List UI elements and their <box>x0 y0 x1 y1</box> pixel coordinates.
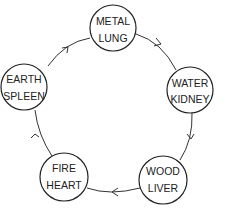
edge-metal-to-water <box>136 34 176 70</box>
node-label-element: WATER <box>172 77 209 89</box>
arrow-head-icon <box>154 38 161 46</box>
node-fire-heart: FIRE HEART <box>40 153 88 201</box>
node-label-element: METAL <box>96 15 130 27</box>
edge-wood-to-fire <box>87 188 140 196</box>
five-elements-cycle-diagram: METAL LUNG WATER KIDNEY WOOD LIVER FIRE … <box>0 0 225 213</box>
edge-fire-to-earth <box>31 110 52 156</box>
node-label-organ: SPLEEN <box>3 90 44 102</box>
node-label-element: WOOD <box>146 165 180 177</box>
edge-water-to-wood <box>180 113 194 160</box>
node-label-element: EARTH <box>6 73 41 85</box>
node-label-element: FIRE <box>52 162 76 174</box>
node-metal-lung: METAL LUNG <box>90 5 136 51</box>
node-label-organ: KIDNEY <box>170 93 209 105</box>
node-earth-spleen: EARTH SPLEEN <box>1 64 47 110</box>
node-water-kidney: WATER KIDNEY <box>167 67 213 113</box>
node-label-organ: LUNG <box>98 32 127 44</box>
arrow-head-icon <box>31 134 39 138</box>
node-wood-liver: WOOD LIVER <box>139 156 187 204</box>
node-label-organ: LIVER <box>148 182 179 194</box>
node-label-organ: HEART <box>46 179 82 191</box>
edge-earth-to-metal <box>48 38 90 66</box>
